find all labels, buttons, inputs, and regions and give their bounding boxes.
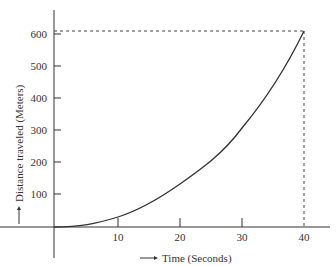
svg-text:Time (Seconds): Time (Seconds) (162, 252, 232, 265)
x-ticks: 10 20 30 40 (113, 218, 311, 243)
x-axis-title: Time (Seconds) (140, 252, 232, 265)
x-tick-label: 30 (237, 231, 249, 243)
distance-curve (54, 31, 304, 227)
y-ticks: 100 200 300 400 500 600 (31, 28, 62, 200)
x-tick-label: 40 (299, 231, 311, 243)
y-axis-title: Distance traveled (Meters) (13, 84, 26, 224)
y-tick-label: 600 (31, 28, 48, 40)
y-tick-label: 400 (31, 92, 48, 104)
y-tick-label: 300 (31, 124, 48, 136)
y-tick-label: 200 (31, 156, 48, 168)
y-tick-label: 100 (31, 188, 48, 200)
x-tick-label: 20 (175, 231, 187, 243)
y-tick-label: 500 (31, 60, 48, 72)
x-tick-label: 10 (113, 231, 125, 243)
svg-text:Distance traveled (Meters): Distance traveled (Meters) (13, 84, 26, 202)
chart: 100 200 300 400 500 600 10 20 30 40 Time… (0, 0, 336, 266)
